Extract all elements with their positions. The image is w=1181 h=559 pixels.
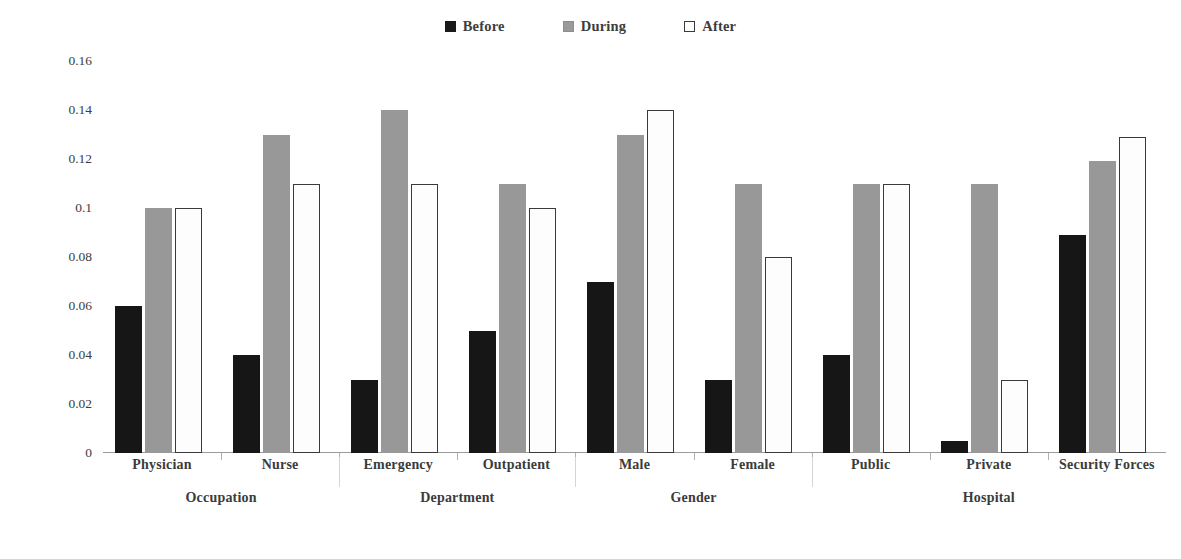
legend-item-before: Before: [445, 18, 505, 35]
bar-before-physician: [115, 306, 142, 453]
y-axis-tick-0.14: 0.14: [42, 102, 92, 118]
category-label-nurse: Nurse: [262, 457, 299, 473]
legend-swatch-before-icon: [445, 21, 456, 32]
bar-after-outpatient: [529, 208, 556, 453]
legend-item-after: After: [684, 18, 736, 35]
bar-after-emergency: [411, 184, 438, 454]
legend-label-before: Before: [463, 18, 505, 35]
category-label-security-forces: Security Forces: [1059, 457, 1155, 473]
category-label-male: Male: [619, 457, 650, 473]
group-label-department: Department: [420, 490, 494, 506]
x-axis-group-labels: OccupationDepartmentGenderHospital: [103, 490, 1166, 516]
bar-during-security-forces: [1089, 161, 1116, 453]
bar-during-outpatient: [499, 184, 526, 454]
category-label-female: Female: [730, 457, 775, 473]
bar-during-physician: [145, 208, 172, 453]
bar-during-male: [617, 135, 644, 454]
group-divider: [812, 457, 813, 487]
legend-label-during: During: [581, 18, 627, 35]
bar-after-security-forces: [1119, 137, 1146, 453]
bar-after-private: [1001, 380, 1028, 454]
y-axis-tick-0.12: 0.12: [42, 151, 92, 167]
y-axis-tick-0.16: 0.16: [42, 53, 92, 69]
legend-label-after: After: [702, 18, 736, 35]
bar-during-emergency: [381, 110, 408, 453]
category-label-physician: Physician: [132, 457, 191, 473]
group-divider: [575, 457, 576, 487]
bar-after-male: [647, 110, 674, 453]
x-axis-category-labels: PhysicianNurseEmergencyOutpatientMaleFem…: [103, 457, 1166, 483]
y-axis-tick-0.02: 0.02: [42, 396, 92, 412]
category-label-outpatient: Outpatient: [483, 457, 550, 473]
group-label-gender: Gender: [670, 490, 716, 506]
bar-during-female: [735, 184, 762, 454]
category-label-emergency: Emergency: [364, 457, 433, 473]
bar-before-private: [941, 441, 968, 453]
chart-legend: Before During After: [0, 18, 1181, 35]
y-axis-tick-0.06: 0.06: [42, 298, 92, 314]
group-label-occupation: Occupation: [185, 490, 256, 506]
y-axis-tick-0: 0: [42, 445, 92, 461]
bar-during-private: [971, 184, 998, 454]
bar-after-public: [883, 184, 910, 454]
y-axis-tick-0.1: 0.1: [42, 200, 92, 216]
bar-before-female: [705, 380, 732, 454]
bar-before-male: [587, 282, 614, 454]
y-axis-tick-0.04: 0.04: [42, 347, 92, 363]
legend-item-during: During: [563, 18, 627, 35]
bar-during-public: [853, 184, 880, 454]
group-divider: [339, 457, 340, 487]
bar-before-public: [823, 355, 850, 453]
bar-after-female: [765, 257, 792, 453]
group-label-hospital: Hospital: [963, 490, 1015, 506]
bar-before-nurse: [233, 355, 260, 453]
bar-series-container: [103, 61, 1166, 453]
legend-swatch-after-icon: [684, 21, 695, 32]
legend-swatch-during-icon: [563, 21, 574, 32]
plot-area: [103, 61, 1166, 453]
category-label-private: Private: [966, 457, 1011, 473]
bar-during-nurse: [263, 135, 290, 454]
bar-before-emergency: [351, 380, 378, 454]
bar-before-security-forces: [1059, 235, 1086, 453]
bar-before-outpatient: [469, 331, 496, 454]
bar-after-physician: [175, 208, 202, 453]
y-axis-tick-0.08: 0.08: [42, 249, 92, 265]
bar-after-nurse: [293, 184, 320, 454]
category-label-public: Public: [851, 457, 890, 473]
bar-chart-figure: Before During After Mean of Questionnair…: [0, 0, 1181, 559]
